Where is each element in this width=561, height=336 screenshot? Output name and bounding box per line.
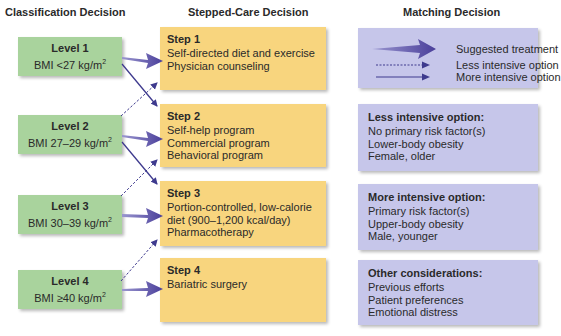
level-4-box: Level 4 BMI ≥40 kg/m2 xyxy=(18,270,122,309)
less-intensive-box: Less intensive option: No primary risk f… xyxy=(358,104,538,171)
more-intensive-box: More intensive option: Primary risk fact… xyxy=(358,184,538,250)
matching-line: Patient preferences xyxy=(368,294,538,307)
level-bmi: BMI 27–29 kg/m2 xyxy=(18,133,122,150)
matching-line: Lower-body obesity xyxy=(368,138,538,151)
step-line: Bariatric surgery xyxy=(167,278,326,291)
step-line: Behavioral program xyxy=(167,149,326,162)
suggested-arrow-level2-step2 xyxy=(122,131,163,147)
legend-less-label: Less intensive option xyxy=(456,59,559,71)
matching-title: Other considerations: xyxy=(368,266,538,280)
step-line: Portion-controlled, low-calorie xyxy=(167,201,326,214)
level-2-box: Level 2 BMI 27–29 kg/m2 xyxy=(18,115,122,154)
more-intensive-arrow-level2-step3 xyxy=(122,142,157,184)
matching-title: More intensive option: xyxy=(368,190,538,204)
matching-line: Emotional distress xyxy=(368,306,538,319)
suggested-treatment-arrow-icon xyxy=(372,39,436,59)
level-title: Level 3 xyxy=(18,200,122,213)
matching-decision-heading: Matching Decision xyxy=(403,6,500,18)
legend-box: Suggested treatment Less intensive optio… xyxy=(358,28,538,88)
less-intensive-arrow-level3-step2 xyxy=(121,160,157,196)
level-bmi: BMI 30–39 kg/m2 xyxy=(18,213,122,230)
other-considerations-box: Other considerations: Previous efforts P… xyxy=(358,260,538,325)
step-line: diet (900–1,200 kcal/day) xyxy=(167,214,326,227)
step-line: Self-help program xyxy=(167,124,326,137)
step-line: Commercial program xyxy=(167,137,326,150)
step-title: Step 2 xyxy=(167,110,326,123)
step-title: Step 4 xyxy=(167,264,326,277)
level-title: Level 4 xyxy=(18,275,122,288)
step-1-box: Step 1 Self-directed diet and exercise P… xyxy=(160,27,326,90)
matching-line: Primary risk factor(s) xyxy=(368,205,538,218)
legend-more-label: More intensive option xyxy=(456,71,561,83)
level-title: Level 1 xyxy=(18,42,122,55)
matching-line: Upper-body obesity xyxy=(368,218,538,231)
stepped-care-decision-heading: Stepped-Care Decision xyxy=(188,6,308,18)
level-bmi: BMI ≥40 kg/m2 xyxy=(18,288,122,305)
matching-line: No primary risk factor(s) xyxy=(368,125,538,138)
less-intensive-arrow-icon xyxy=(376,62,430,69)
level-3-box: Level 3 BMI 30–39 kg/m2 xyxy=(18,195,122,234)
level-bmi: BMI <27 kg/m2 xyxy=(18,55,122,72)
matching-title: Less intensive option: xyxy=(368,110,538,124)
legend-icons xyxy=(358,28,438,88)
step-title: Step 3 xyxy=(167,187,326,200)
step-title: Step 1 xyxy=(167,33,326,46)
step-line: Physician counseling xyxy=(167,60,326,73)
step-4-box: Step 4 Bariatric surgery xyxy=(160,258,326,322)
suggested-arrow-level1-step1 xyxy=(122,53,163,69)
level-title: Level 2 xyxy=(18,120,122,133)
matching-line: Male, younger xyxy=(368,230,538,243)
step-3-box: Step 3 Portion-controlled, low-calorie d… xyxy=(160,181,326,246)
level-1-box: Level 1 BMI <27 kg/m2 xyxy=(18,37,122,76)
more-intensive-arrow-level1-step2 xyxy=(122,64,157,106)
step-line: Self-directed diet and exercise xyxy=(167,47,326,60)
step-line: Pharmacotherapy xyxy=(167,226,326,239)
less-intensive-arrow-level2-step1 xyxy=(121,83,157,116)
suggested-arrow-level3-step3 xyxy=(122,208,163,224)
legend-suggested-label: Suggested treatment xyxy=(456,43,558,55)
step-2-box: Step 2 Self-help program Commercial prog… xyxy=(160,104,326,167)
suggested-arrow-level4-step4 xyxy=(122,281,163,297)
more-intensive-arrow-icon xyxy=(376,74,430,81)
classification-decision-heading: Classification Decision xyxy=(5,6,125,18)
less-intensive-arrow-level4-step3 xyxy=(121,240,157,281)
matching-line: Female, older xyxy=(368,150,538,163)
matching-line: Previous efforts xyxy=(368,281,538,294)
